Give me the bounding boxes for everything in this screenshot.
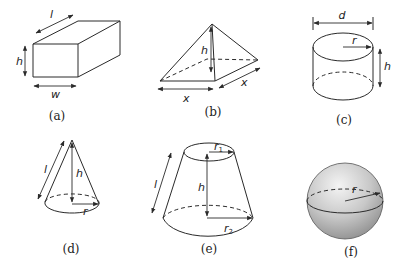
figure-c-cylinder: d r h (c) xyxy=(313,9,391,127)
pyramid-outline xyxy=(160,24,258,81)
label-l: l xyxy=(154,178,157,191)
label-l: l xyxy=(44,163,47,176)
label-h: h xyxy=(201,44,208,57)
base-side-arrow-right xyxy=(219,68,260,88)
label-w: w xyxy=(51,88,60,101)
label-x-front: x xyxy=(182,92,190,105)
cylinder-bottom-hidden xyxy=(313,72,373,86)
frustum-bottom-hidden xyxy=(163,205,253,218)
figure-d-cone: l h r (d) xyxy=(38,140,99,256)
caption-e: (e) xyxy=(201,242,217,256)
caption-c: (c) xyxy=(336,113,352,127)
prism-outline xyxy=(33,21,120,77)
figure-a-rectangular-prism: l h w (a) xyxy=(16,8,120,123)
label-h: h xyxy=(76,167,83,180)
cylinder-sides xyxy=(313,47,373,100)
label-r1: r1 xyxy=(214,140,223,154)
figure-b-square-pyramid: h x x (b) xyxy=(158,24,260,119)
label-r: r xyxy=(352,34,358,47)
length-arrow xyxy=(36,15,73,33)
caption-a: (a) xyxy=(49,109,66,123)
label-r2: r2 xyxy=(224,222,233,236)
caption-d: (d) xyxy=(62,242,79,256)
label-l: l xyxy=(50,8,53,21)
slant-arrow xyxy=(38,141,64,199)
figure-f-sphere: r (f) xyxy=(307,163,383,259)
label-h: h xyxy=(198,181,205,194)
figure-e-frustum: l h r1 r2 (e) xyxy=(152,140,253,256)
label-h: h xyxy=(16,55,23,68)
label-h: h xyxy=(384,60,391,73)
frustum-sides xyxy=(163,152,253,236)
label-x-right: x xyxy=(240,76,248,89)
caption-f: (f) xyxy=(344,245,358,259)
label-d: d xyxy=(339,9,347,22)
caption-b: (b) xyxy=(204,105,221,119)
